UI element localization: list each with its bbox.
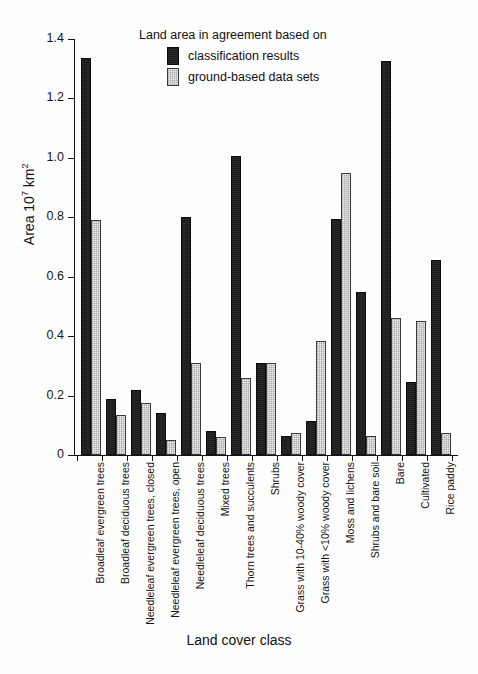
- x-tick: [177, 455, 178, 461]
- x-tick: [352, 455, 353, 461]
- x-tick: [377, 455, 378, 461]
- bar: [81, 58, 91, 455]
- y-axis-line: [74, 39, 75, 456]
- bar: [356, 292, 366, 455]
- x-axis-line: [74, 455, 458, 456]
- x-axis-title: Land cover class: [0, 632, 478, 648]
- x-tick: [402, 455, 403, 461]
- bar: [241, 378, 251, 455]
- bar: [366, 436, 376, 455]
- bar: [381, 61, 391, 455]
- y-tick: [68, 277, 74, 278]
- x-tick: [202, 455, 203, 461]
- x-axis-category-label: Shrubs: [270, 462, 280, 495]
- x-axis-category-label: Broadleaf evergreen trees: [95, 462, 105, 583]
- bar: [306, 421, 316, 455]
- bar: [156, 413, 166, 455]
- bar: [131, 390, 141, 455]
- bar: [91, 220, 101, 455]
- x-axis-category-label: Cultivated: [420, 462, 430, 509]
- y-tick: [68, 336, 74, 337]
- bar: [291, 433, 301, 455]
- bar: [256, 363, 266, 455]
- y-tick: [68, 455, 74, 456]
- bar: [266, 363, 276, 455]
- y-tick-label: 0.4: [30, 328, 64, 342]
- bar: [231, 156, 241, 455]
- bar: [441, 433, 451, 455]
- bar: [341, 173, 351, 455]
- y-tick: [68, 39, 74, 40]
- x-tick: [327, 455, 328, 461]
- x-tick: [252, 455, 253, 461]
- x-axis-category-label: Grass with <10% woody cover: [320, 462, 330, 604]
- bar: [431, 260, 441, 455]
- x-tick: [227, 455, 228, 461]
- x-axis-category-label: Needleleaf evergreen trees, closed: [145, 462, 155, 625]
- y-tick: [68, 98, 74, 99]
- y-tick-label: 0.2: [30, 388, 64, 402]
- bar: [216, 437, 226, 455]
- x-tick: [302, 455, 303, 461]
- x-axis-category-label: Broadleaf deciduous trees: [120, 462, 130, 584]
- x-axis-category-label: Needleleaf deciduous trees: [195, 462, 205, 589]
- y-tick-label: 0: [30, 447, 64, 461]
- bar: [206, 431, 216, 455]
- y-tick-label: 1.4: [30, 31, 64, 45]
- bar: [281, 436, 291, 455]
- x-axis-category-label: Needleleaf evergreen trees, open: [170, 462, 180, 618]
- x-tick: [127, 455, 128, 461]
- plot-area: [78, 39, 458, 455]
- x-tick: [102, 455, 103, 461]
- x-axis-category-label: Thorn trees and succulents: [245, 462, 255, 589]
- bar: [106, 399, 116, 455]
- x-axis-category-label: Moss and lichens: [345, 462, 355, 543]
- y-tick-label: 1.2: [30, 90, 64, 104]
- x-tick: [452, 455, 453, 461]
- bar: [331, 219, 341, 455]
- bar: [141, 403, 151, 455]
- bar: [316, 341, 326, 455]
- y-tick: [68, 396, 74, 397]
- x-axis-category-label: Mixed trees: [220, 462, 230, 516]
- bar: [391, 318, 401, 455]
- y-axis-title-text: Area 107 km2: [20, 164, 36, 246]
- bar: [181, 217, 191, 455]
- x-tick: [427, 455, 428, 461]
- x-tick: [277, 455, 278, 461]
- x-axis-category-label: Bare: [395, 462, 405, 484]
- bar: [416, 321, 426, 455]
- x-tick: [77, 455, 78, 461]
- bar: [191, 363, 201, 455]
- y-axis-title: Area 107 km2: [20, 104, 37, 304]
- x-tick: [152, 455, 153, 461]
- bar: [406, 382, 416, 455]
- x-axis-category-label: Rice paddy: [445, 462, 455, 515]
- bar: [166, 440, 176, 455]
- chart-figure: Land area in agreement based on classifi…: [0, 0, 478, 674]
- y-tick: [68, 217, 74, 218]
- y-tick: [68, 158, 74, 159]
- x-axis-category-label: Grass with 10-40% woody cover: [295, 462, 305, 613]
- bar: [116, 415, 126, 455]
- x-axis-category-label: Shrubs and bare soil: [370, 462, 380, 558]
